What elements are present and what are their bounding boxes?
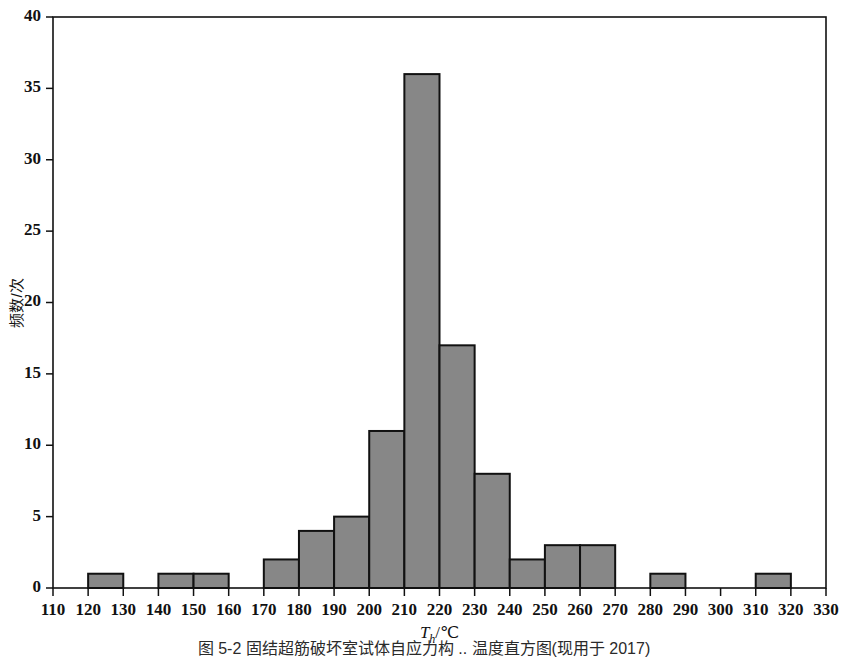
x-tick-label: 290 — [673, 600, 699, 619]
x-tick-label: 270 — [602, 600, 628, 619]
x-tick-label: 120 — [75, 600, 101, 619]
histogram-figure: 0510152025303540 11012013014015016017018… — [0, 0, 848, 661]
y-axis-title: 频数/次 — [8, 278, 25, 327]
x-tick-label: 110 — [41, 600, 66, 619]
histogram-bar — [194, 574, 229, 588]
figure-caption: 图 5-2 固结超筋破坏室试体自应力构 .. 温度直方图(现用于 2017) — [198, 639, 651, 657]
x-tick-label: 330 — [813, 600, 839, 619]
x-tick-label: 210 — [392, 600, 418, 619]
histogram-bar — [404, 74, 439, 588]
y-tick-label: 30 — [24, 149, 41, 168]
y-tick-label: 0 — [33, 577, 42, 596]
y-tick-label: 10 — [24, 434, 41, 453]
x-tick-label: 260 — [567, 600, 593, 619]
x-tick-label: 130 — [111, 600, 137, 619]
histogram-bar — [264, 559, 299, 588]
y-tick-label: 35 — [24, 77, 41, 96]
y-tick-label: 20 — [24, 291, 41, 310]
x-tick-label: 140 — [146, 600, 172, 619]
x-tick-label: 220 — [427, 600, 453, 619]
x-tick-label: 200 — [356, 600, 382, 619]
histogram-bar — [510, 559, 545, 588]
x-tick-label: 170 — [251, 600, 277, 619]
histogram-bar — [88, 574, 123, 588]
histogram-bar — [580, 545, 615, 588]
y-tick-label: 5 — [33, 506, 42, 525]
x-tick-label: 250 — [532, 600, 558, 619]
x-tick-label: 300 — [708, 600, 734, 619]
x-tick-label: 150 — [181, 600, 207, 619]
figure-caption-container: 图 5-2 固结超筋破坏室试体自应力构 .. 温度直方图(现用于 2017) — [0, 638, 848, 661]
x-tick-label: 160 — [216, 600, 242, 619]
x-tick-label: 280 — [638, 600, 664, 619]
y-axis-title-label: 频数/次 — [8, 278, 25, 327]
x-tick-label: 180 — [286, 600, 312, 619]
x-axis-tick-labels: 1101201301401501601701801902002102202302… — [41, 600, 839, 619]
histogram-bar — [756, 574, 791, 588]
x-tick-label: 230 — [462, 600, 488, 619]
histogram-bar — [369, 431, 404, 588]
x-tick-label: 240 — [497, 600, 523, 619]
y-tick-label: 25 — [24, 220, 41, 239]
histogram-bar — [440, 345, 475, 588]
histogram-bar — [158, 574, 193, 588]
x-tick-label: 310 — [743, 600, 769, 619]
frequency-histogram-chart: 0510152025303540 11012013014015016017018… — [0, 0, 848, 661]
histogram-bar — [299, 531, 334, 588]
histogram-bar — [650, 574, 685, 588]
histogram-bar — [334, 517, 369, 588]
y-tick-label: 40 — [24, 6, 41, 25]
histogram-bar — [545, 545, 580, 588]
histogram-bar — [475, 474, 510, 588]
x-tick-label: 320 — [778, 600, 804, 619]
x-tick-label: 190 — [321, 600, 347, 619]
y-tick-label: 15 — [24, 363, 41, 382]
